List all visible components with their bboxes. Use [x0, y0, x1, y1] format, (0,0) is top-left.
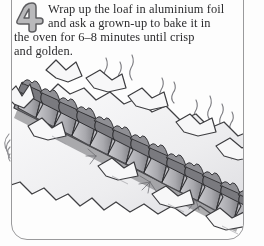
step-number-badge [15, 1, 45, 33]
instruction-line-3: the oven for 6–8 minutes until crisp [14, 30, 242, 44]
recipe-step-page: Wrap up the loaf in aluminium foil and a… [0, 0, 264, 246]
step-instruction-text: Wrap up the loaf in aluminium foil and a… [14, 2, 242, 58]
instruction-line-2: and ask a grown-up to bake it in [14, 16, 242, 30]
instruction-line-1: Wrap up the loaf in aluminium foil [14, 2, 242, 16]
instruction-line-4: and golden. [14, 44, 242, 58]
